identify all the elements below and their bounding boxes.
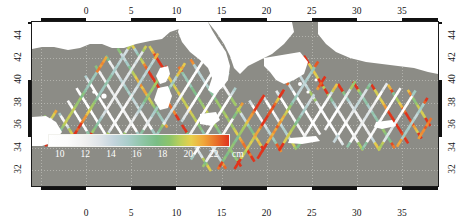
x-tick-label: 30 xyxy=(344,6,370,16)
y-tick-label: 44 xyxy=(13,23,23,47)
frame-bar-segment xyxy=(131,18,176,21)
colorbar-tick-label: 16 xyxy=(132,148,142,160)
y-tick-label: 34 xyxy=(447,135,457,159)
y-tick-label: 38 xyxy=(13,90,23,114)
x-tick-label: 20 xyxy=(254,208,280,218)
frame-bar-segment xyxy=(402,18,438,21)
x-tick-label: 0 xyxy=(73,208,99,218)
map-frame: 10121416182022cm 44424038363432 44424038… xyxy=(32,22,438,186)
frame-bar-segment xyxy=(41,18,86,21)
colorbar-tick-label: 12 xyxy=(81,148,91,160)
frame-bar-segment xyxy=(312,18,357,21)
frame-bar-segment xyxy=(439,80,442,136)
frame-line-top xyxy=(31,21,439,22)
frame-bar-segment xyxy=(41,187,86,190)
y-tick-label: 32 xyxy=(447,157,457,181)
x-tick-label: 35 xyxy=(389,6,415,16)
y-tick-label: 40 xyxy=(447,67,457,91)
y-tick-label: 32 xyxy=(13,157,23,181)
x-tick-label: 25 xyxy=(299,6,325,16)
x-tick-label: 15 xyxy=(209,6,235,16)
x-tick-label: 15 xyxy=(209,208,235,218)
frame-bar-segment xyxy=(28,22,31,24)
figure-root: 05101520253035 xyxy=(0,0,470,220)
x-tick-label: 10 xyxy=(163,208,189,218)
y-tick-label: 36 xyxy=(447,112,457,136)
colorbar-tick-label: 14 xyxy=(106,148,116,160)
colorbar-tick-label: 20 xyxy=(183,148,193,160)
colorbar-gradient xyxy=(48,134,230,147)
y-tick-label: 34 xyxy=(13,135,23,159)
y-tick-label: 36 xyxy=(13,112,23,136)
map-plot-area: 10121416182022cm xyxy=(32,22,438,186)
frame-bar-segment xyxy=(131,187,176,190)
colorbar-ticklabels: 10121416182022cm xyxy=(40,148,245,162)
x-tick-label: 25 xyxy=(299,208,325,218)
frame-bar-segment xyxy=(312,187,357,190)
frame-bar-segment xyxy=(402,187,438,190)
y-tick-label: 44 xyxy=(447,23,457,47)
x-tick-label: 10 xyxy=(163,6,189,16)
x-tick-label: 0 xyxy=(73,6,99,16)
y-tick-label: 38 xyxy=(447,90,457,114)
x-tick-label: 5 xyxy=(118,6,144,16)
frame-line-left xyxy=(31,21,32,187)
y-tick-label: 40 xyxy=(13,67,23,91)
colorbar-tick-label: 22 xyxy=(209,148,219,160)
frame-bar-segment xyxy=(439,22,442,24)
colorbar-tick-label: 18 xyxy=(158,148,168,160)
y-tick-label: 42 xyxy=(13,45,23,69)
x-tick-label: 20 xyxy=(254,6,280,16)
frame-bar-segment xyxy=(221,18,266,21)
x-tick-label: 30 xyxy=(344,208,370,218)
y-tick-label: 42 xyxy=(447,45,457,69)
colorbar-tick-label: 10 xyxy=(55,148,65,160)
x-tick-label: 35 xyxy=(389,208,415,218)
colorbar-unit-label: cm xyxy=(232,148,244,160)
frame-bar-segment xyxy=(221,187,266,190)
x-tick-label: 5 xyxy=(118,208,144,218)
frame-bar-segment xyxy=(28,80,31,136)
